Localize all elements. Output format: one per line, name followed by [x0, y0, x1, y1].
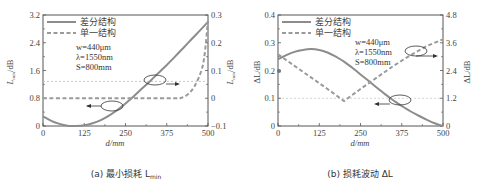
svg-text:ΔL/dB: ΔL/dB — [252, 60, 262, 83]
series-differential-a — [43, 22, 208, 126]
start-marker-b — [277, 69, 281, 73]
legend-label-differential-b: 差分结构 — [315, 16, 351, 27]
ellipse-marker-left-a — [101, 101, 123, 111]
param-width-b: w=440μm — [355, 37, 390, 47]
ticks-a: 012525037550000.81.62.43.2−0.100.10.20.3 — [29, 10, 226, 138]
legend-label-single-b: 单一结构 — [315, 27, 351, 38]
x-tick-label: 0 — [276, 128, 280, 138]
svg-text:Lmin/dB: Lmin/dB — [5, 59, 16, 85]
y-right-tick-label: 0.3 — [211, 10, 222, 20]
plot-frame-a — [43, 15, 208, 126]
legend-label-differential-a: 差分结构 — [80, 16, 116, 27]
y-axis-label-right-b: ΔL/dB — [462, 60, 472, 83]
y-right-tick-label: 1.2 — [446, 93, 457, 103]
legend-label-single-a: 单一结构 — [80, 27, 116, 38]
y-left-tick-label: 2.4 — [29, 38, 40, 48]
chart-panel-a: 012525037550000.81.62.43.2−0.100.10.20.3… — [5, 10, 236, 180]
ellipse-marker-right-b — [405, 46, 427, 56]
param-spacing-a: S=800mm — [76, 62, 112, 72]
param-spacing-b: S=800mm — [355, 57, 391, 67]
y-right-tick-label: 4.8 — [446, 10, 457, 20]
arrow-head-left-b — [374, 102, 379, 106]
y-left-tick-label: 3.2 — [29, 10, 40, 20]
arrow-head-left-a — [86, 104, 91, 108]
x-tick-label: 125 — [78, 128, 91, 138]
figure: 012525037550000.81.62.43.2−0.100.10.20.3… — [0, 0, 484, 189]
y-axis-label-right-a: Lmin/dB — [225, 59, 236, 85]
x-tick-label: 250 — [354, 128, 367, 138]
y-right-tick-label: 2.4 — [446, 66, 457, 76]
y-right-tick-label: 0 — [211, 93, 215, 103]
y-right-tick-label: 3.6 — [446, 38, 457, 48]
y-left-tick-label: 0.3 — [264, 38, 275, 48]
y-left-tick-label: 0 — [271, 121, 275, 131]
y-right-tick-label: 0.1 — [211, 66, 222, 76]
caption-a: (a) 最小损耗 Lmin — [91, 168, 162, 180]
x-tick-label: 375 — [160, 128, 173, 138]
x-tick-label: 0 — [41, 128, 45, 138]
x-tick-label: 375 — [395, 128, 408, 138]
param-wavelength-a: λ=1550nm — [76, 52, 113, 62]
y-left-tick-label: 0.4 — [264, 10, 275, 20]
chart-panel-b: 012525037550000.10.20.30.401.22.43.64.8 … — [252, 10, 472, 179]
y-right-tick-label: 0 — [446, 121, 450, 131]
param-width-a: w=440μm — [76, 42, 111, 52]
arrow-head-right-a — [175, 82, 180, 86]
y-right-tick-label: 0.2 — [211, 38, 222, 48]
svg-text:ΔL/dB: ΔL/dB — [462, 60, 472, 83]
y-right-tick-label: −0.1 — [211, 121, 226, 131]
x-tick-label: 250 — [119, 128, 132, 138]
arrow-head-right-b — [433, 54, 438, 58]
param-wavelength-b: λ=1550nm — [355, 47, 392, 57]
caption-b: (b) 损耗波动 ΔL — [327, 168, 393, 179]
y-left-tick-label: 0 — [36, 121, 40, 131]
x-axis-label-a: d/mm — [106, 138, 125, 148]
x-axis-label-b: d/mm — [351, 138, 370, 148]
y-left-tick-label: 0.2 — [264, 66, 275, 76]
x-tick-label: 125 — [313, 128, 326, 138]
y-left-tick-label: 0.1 — [264, 93, 275, 103]
y-left-tick-label: 0.8 — [29, 93, 40, 103]
y-left-tick-label: 1.6 — [29, 66, 40, 76]
y-axis-label-left-a: Lmin/dB — [5, 59, 16, 85]
svg-text:Lmin/dB: Lmin/dB — [225, 59, 236, 85]
y-axis-label-left-b: ΔL/dB — [252, 60, 262, 83]
